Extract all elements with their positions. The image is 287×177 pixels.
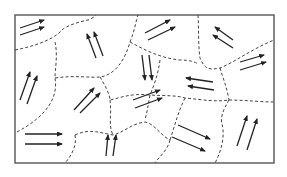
- domain-d12: [106, 135, 116, 156]
- magnetization-arrow-icon: [213, 35, 233, 48]
- domain-wall: [170, 98, 185, 140]
- domain-wall: [155, 140, 170, 163]
- domain-d7: [142, 55, 152, 80]
- magnetization-arrow-icon: [186, 78, 213, 82]
- magnetization-arrow-icon: [80, 93, 100, 113]
- domain-wall: [110, 100, 113, 135]
- domain-d6: [20, 72, 37, 104]
- domain-walls: [15, 15, 274, 163]
- domain-wall: [198, 15, 274, 69]
- magnetization-arrow-icon: [106, 135, 108, 156]
- magnetization-arrow-icon: [94, 32, 103, 56]
- magnetization-arrow-icon: [149, 55, 152, 80]
- domain-wall: [229, 100, 274, 102]
- magnetization-arrow-icon: [247, 119, 257, 150]
- domain-d10: [133, 90, 162, 108]
- domain-wall: [75, 122, 170, 140]
- magnetization-arrow-icon: [20, 20, 44, 28]
- domain-wall: [130, 42, 198, 64]
- domain-d5: [240, 55, 266, 70]
- magnetization-arrow-icon: [188, 86, 214, 90]
- magnetization-arrow-icon: [237, 116, 247, 146]
- material-boundary-frame: [15, 15, 274, 163]
- magnetization-arrow-icon: [240, 62, 266, 70]
- magnetization-arrow-icon: [20, 27, 44, 35]
- domain-d14: [237, 116, 257, 150]
- domain-d9: [74, 88, 100, 113]
- magnetization-arrow-icon: [142, 55, 145, 80]
- magnetization-arrow-icon: [178, 125, 210, 139]
- magnetization-arrow-icon: [135, 98, 162, 108]
- domain-d3: [145, 20, 175, 40]
- magnetization-arrow-icon: [172, 137, 205, 151]
- magnetization-arrow-icon: [87, 34, 96, 58]
- domain-wall: [220, 68, 229, 100]
- magnetization-arrow-icon: [74, 88, 94, 110]
- domain-d8: [186, 78, 214, 90]
- domain-d11: [25, 134, 62, 144]
- magnetization-arrows: [20, 20, 266, 156]
- domain-wall: [55, 15, 138, 78]
- magnetization-arrow-icon: [113, 135, 116, 156]
- domain-wall: [15, 42, 56, 133]
- domain-wall: [145, 95, 150, 120]
- magnetic-domains-diagram: [0, 0, 287, 177]
- magnetization-arrow-icon: [27, 76, 37, 104]
- domain-wall: [215, 100, 229, 163]
- domain-d1: [20, 20, 44, 35]
- magnetization-arrow-icon: [20, 72, 30, 100]
- domain-d13: [172, 125, 210, 151]
- domain-d4: [213, 27, 233, 48]
- domain-wall: [65, 135, 75, 163]
- domain-d2: [87, 32, 103, 58]
